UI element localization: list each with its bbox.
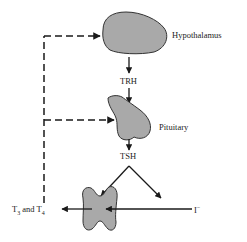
t3-t4-label: T3 and T4 [12,204,45,216]
iodide-charge: − [197,204,200,210]
t4-subscript: 4 [42,210,45,216]
hypothalamus-label: Hypothalamus [172,30,222,40]
iodide-label: I− [194,204,200,215]
tsh-label: TSH [120,151,136,161]
hypothalamus-shape [103,12,167,54]
pituitary-shape [108,96,151,140]
trh-label: TRH [120,76,137,86]
tsh-to-iodide-path-arrow [129,166,161,198]
t4-prefix: and T [20,204,42,214]
pituitary-label: Pituitary [159,122,188,132]
